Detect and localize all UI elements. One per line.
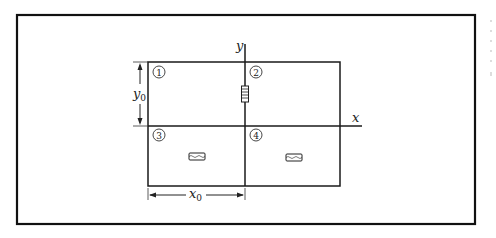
svg-text:4: 4 xyxy=(253,131,259,141)
quadrant-3-marker: 3 xyxy=(153,129,165,141)
quadrant-1-marker: 1 xyxy=(153,66,165,78)
horizontal-resistor-icon-q4 xyxy=(286,154,302,161)
x0-arrow-right-icon xyxy=(237,193,244,198)
quadrant-2-marker: 2 xyxy=(250,66,262,78)
y-axis-label: y xyxy=(235,38,244,53)
outer-frame xyxy=(17,15,475,224)
x-axis-label: x xyxy=(352,110,360,125)
vertical-resistor-icon xyxy=(242,86,249,102)
quadrant-4-marker: 4 xyxy=(250,129,262,141)
diagram-canvas: y x y0 x0 1 2 3 4 xyxy=(0,0,496,238)
svg-text:3: 3 xyxy=(156,131,162,141)
edge-artifacts xyxy=(490,20,492,76)
y0-label: y0 xyxy=(132,86,146,103)
svg-text:1: 1 xyxy=(156,68,162,78)
plate-rectangle xyxy=(148,62,340,186)
x0-arrow-left-icon xyxy=(149,193,156,198)
y0-arrow-up-icon xyxy=(138,63,143,70)
x0-label: x0 xyxy=(189,186,202,203)
y0-arrow-down-icon xyxy=(138,118,143,125)
horizontal-resistor-icon-q3 xyxy=(189,153,205,160)
svg-text:2: 2 xyxy=(253,68,259,78)
